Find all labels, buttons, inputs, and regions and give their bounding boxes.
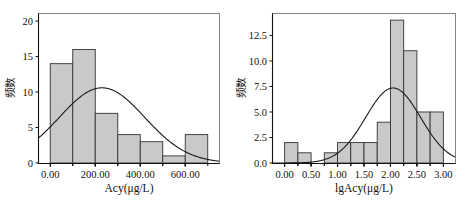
x-axis-tick-label: 2.50	[408, 169, 426, 180]
y-axis-tick-label: 15	[23, 51, 34, 62]
y-axis-tick-label: 0	[28, 158, 33, 169]
x-axis-tick-label: 600.00	[171, 169, 200, 180]
x-axis-tick-label: 200.00	[81, 169, 110, 180]
histogram-bar	[377, 122, 390, 163]
x-axis-tick-label: 0.00	[41, 169, 59, 180]
acy-y-axis: 05101520	[23, 14, 40, 169]
x-axis-tick-label: 0.00	[275, 169, 293, 180]
histogram-bar	[163, 156, 186, 163]
y-axis-tick-label: 5.0	[254, 107, 267, 118]
x-axis-tick-label: 3.00	[434, 169, 452, 180]
histogram-bar	[140, 142, 163, 163]
histogram-bar	[351, 143, 364, 163]
histogram-bar	[118, 135, 141, 163]
acy-x-axis-title: Acy(μg/L)	[105, 182, 154, 195]
y-axis-tick-label: 0.0	[254, 158, 267, 169]
histogram-bar	[364, 143, 377, 163]
acy-bars-group	[50, 49, 208, 163]
histogram-bar	[73, 49, 96, 163]
x-axis-tick-label: 2.00	[381, 169, 399, 180]
x-axis-tick-label: 400.00	[126, 169, 155, 180]
x-axis-tick-label: 1.00	[328, 169, 346, 180]
y-axis-tick-label: 5	[28, 122, 33, 133]
lgacy-bars-group	[285, 20, 444, 163]
histogram-bar	[417, 112, 430, 163]
histogram-bar	[430, 112, 443, 163]
lgacy-y-axis: 0.02.55.07.510.012.5	[249, 14, 273, 169]
y-axis-tick-label: 10	[23, 87, 34, 98]
y-axis-tick-label: 12.5	[249, 30, 267, 41]
histogram-bar	[338, 143, 351, 163]
y-axis-tick-label: 10.0	[249, 56, 267, 67]
acy-histogram-svg: 05101520 0.00200.00400.00600.00 Acy(μg/L…	[0, 0, 233, 206]
y-axis-tick-label: 7.5	[254, 81, 267, 92]
lgacy-histogram-svg: 0.02.55.07.510.012.5 0.000.501.001.502.0…	[233, 0, 466, 206]
y-axis-tick-label: 20	[23, 16, 34, 27]
chart-panel-lgacy: 0.02.55.07.510.012.5 0.000.501.001.502.0…	[233, 0, 466, 206]
histogram-bar	[298, 153, 311, 163]
lgacy-x-axis-title: lgAcy(μg/L)	[335, 182, 393, 195]
lgacy-x-axis: 0.000.501.001.502.002.503.00	[273, 163, 456, 180]
acy-y-axis-title: 频数	[4, 77, 16, 98]
histogram-figure: 05101520 0.00200.00400.00600.00 Acy(μg/L…	[0, 0, 466, 206]
y-axis-tick-label: 2.5	[254, 132, 267, 143]
chart-panel-acy: 05101520 0.00200.00400.00600.00 Acy(μg/L…	[0, 0, 233, 206]
lgacy-y-axis-title: 频数	[235, 77, 247, 98]
x-axis-tick-label: 1.50	[355, 169, 373, 180]
acy-x-axis: 0.00200.00400.00600.00	[39, 163, 220, 180]
histogram-bar	[95, 113, 118, 163]
histogram-bar	[285, 143, 298, 163]
histogram-bar	[50, 64, 73, 163]
histogram-bar	[404, 51, 417, 163]
x-axis-tick-label: 0.50	[302, 169, 320, 180]
